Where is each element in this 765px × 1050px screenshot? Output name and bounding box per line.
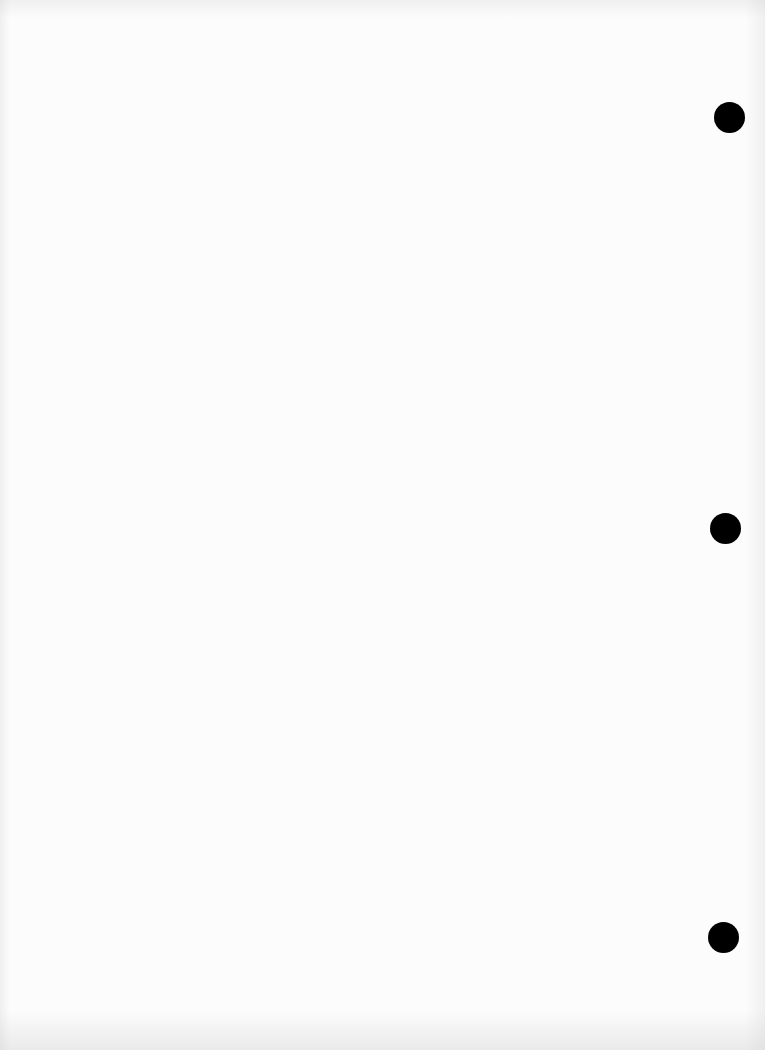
punch-hole-top bbox=[714, 102, 745, 133]
punch-hole-bottom bbox=[708, 922, 739, 953]
faint-bleed-through-text bbox=[430, 110, 670, 140]
blank-page bbox=[0, 0, 765, 1050]
punch-hole-middle bbox=[710, 513, 741, 544]
